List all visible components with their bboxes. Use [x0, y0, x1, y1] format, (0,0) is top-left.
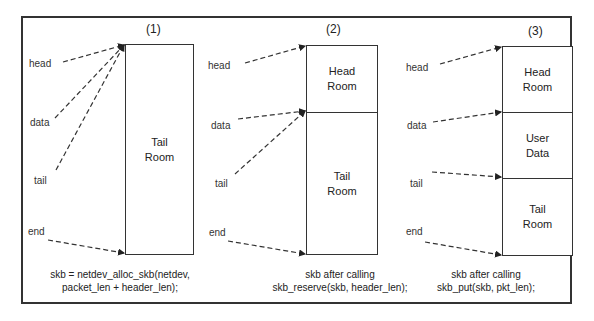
panel-1-end-arrow	[48, 240, 124, 253]
panel-1-head-arrow	[63, 45, 124, 62]
panel-3-end-arrow	[425, 242, 501, 255]
panel-2-tail-arrow	[235, 111, 305, 174]
panel-3-head-arrow	[440, 47, 501, 64]
panel-1-tail-arrow	[56, 45, 124, 170]
panel-3-tail-arrow	[432, 172, 501, 177]
panel-2-data-arrow	[238, 111, 305, 119]
panel-1-data-arrow	[55, 45, 124, 118]
panel-2-end-arrow	[228, 241, 305, 254]
panel-3-data-arrow	[433, 112, 501, 122]
panel-2-head-arrow	[245, 46, 305, 63]
pointer-arrows	[0, 0, 594, 321]
